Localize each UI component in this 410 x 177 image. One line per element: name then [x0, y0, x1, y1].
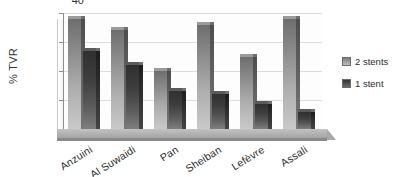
bar-corner-face	[225, 91, 229, 94]
y-tickmark-30	[59, 42, 63, 43]
bar-assali-1-stent	[298, 112, 311, 129]
bar-corner-face	[253, 54, 257, 57]
bar-chart: % TVR 40 30 20 10 0 AnzuiniAl SuwaidiPan…	[0, 0, 410, 177]
legend-label-1-stent: 1 stent	[355, 79, 384, 89]
bar-top-face	[68, 16, 81, 19]
x-axis-label-al-suwaidi: Al Suwaidi	[88, 143, 138, 177]
bar-side-face	[182, 91, 186, 129]
legend-swatch-2-stents-icon	[342, 57, 351, 66]
bar-side-face	[268, 104, 272, 129]
legend-label-2-stents: 2 stents	[355, 57, 388, 67]
bar-lef-vre-2-stents	[240, 57, 253, 130]
bar-face	[68, 19, 81, 129]
bar-corner-face	[139, 62, 143, 65]
x-axis-label-assali: Assali	[278, 143, 309, 169]
bar-top-face	[154, 68, 167, 71]
bar-pan-1-stent	[169, 91, 182, 129]
bar-top-face	[126, 62, 139, 65]
bar-anzuini-1-stent	[83, 51, 96, 129]
y-tick-label-40: 40	[58, 0, 84, 6]
bar-face	[283, 19, 296, 129]
y-axis-title: % TVR	[7, 31, 19, 101]
bar-face	[255, 104, 268, 129]
bar-top-face	[298, 109, 311, 112]
bar-face	[169, 91, 182, 129]
bar-face	[126, 65, 139, 129]
y-tickmark-20	[59, 71, 63, 72]
bar-side-face	[225, 94, 229, 129]
chart-floor-front-edge	[57, 138, 327, 141]
bar-corner-face	[124, 27, 128, 30]
bar-top-face	[111, 27, 124, 30]
gridline-40	[64, 13, 322, 14]
bar-corner-face	[182, 88, 186, 91]
legend-item-2-stents[interactable]: 2 stents	[342, 57, 388, 67]
bar-lef-vre-1-stent	[255, 104, 268, 129]
bar-top-face	[283, 16, 296, 19]
bar-pan-2-stents	[154, 71, 167, 129]
bar-side-face	[139, 65, 143, 129]
bar-al-suwaidi-1-stent	[126, 65, 139, 129]
bar-top-face	[212, 91, 225, 94]
bar-face	[154, 71, 167, 129]
bar-corner-face	[268, 101, 272, 104]
bar-sheiban-2-stents	[197, 25, 210, 129]
bar-corner-face	[96, 48, 100, 51]
plot-area	[63, 13, 321, 129]
bar-corner-face	[311, 109, 315, 112]
x-axis-label-sheiban: Sheiban	[183, 143, 223, 174]
x-axis-label-pan: Pan	[158, 143, 181, 163]
bar-anzuini-2-stents	[68, 19, 81, 129]
bar-sheiban-1-stent	[212, 94, 225, 129]
bar-face	[212, 94, 225, 129]
bar-face	[111, 30, 124, 129]
bar-corner-face	[210, 22, 214, 25]
legend-item-1-stent[interactable]: 1 stent	[342, 79, 388, 89]
bar-top-face	[197, 22, 210, 25]
bar-top-face	[255, 101, 268, 104]
legend: 2 stents 1 stent	[342, 57, 388, 100]
bar-face	[240, 57, 253, 130]
bar-side-face	[96, 51, 100, 129]
x-axis-label-lef-vre: Lefèvre	[229, 143, 266, 172]
bar-corner-face	[167, 68, 171, 71]
bar-face	[83, 51, 96, 129]
bar-face	[197, 25, 210, 129]
bar-assali-2-stents	[283, 19, 296, 129]
y-tickmark-10	[59, 100, 63, 101]
bar-al-suwaidi-2-stents	[111, 30, 124, 129]
bar-top-face	[240, 54, 253, 57]
y-tickmark-40	[59, 13, 63, 14]
bar-corner-face	[81, 16, 85, 19]
legend-swatch-1-stent-icon	[342, 79, 351, 88]
bar-corner-face	[296, 16, 300, 19]
bar-face	[298, 112, 311, 129]
bar-top-face	[83, 48, 96, 51]
y-axis-line	[63, 13, 64, 130]
bar-side-face	[311, 112, 315, 129]
bar-top-face	[169, 88, 182, 91]
